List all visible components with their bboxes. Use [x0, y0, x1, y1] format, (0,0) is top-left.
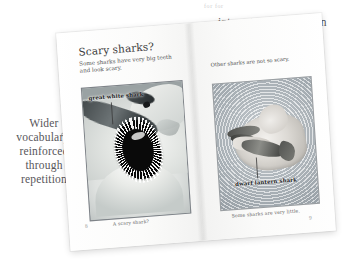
page-number-left: 8: [85, 224, 88, 229]
screenshot-root: for for interest and discussion Wider vo…: [0, 0, 354, 263]
annotation-ghost-text: for for: [204, 3, 224, 9]
open-book: Scary sharks? Some sharks have very big …: [56, 13, 336, 251]
page-number-right: 9: [309, 215, 312, 220]
photo-great-white-shark: great white shark: [81, 80, 192, 222]
photo-dwarf-lantern-shark: dwarf lantern shark: [212, 76, 320, 211]
book-spread: Scary sharks? Some sharks have very big …: [56, 13, 336, 251]
